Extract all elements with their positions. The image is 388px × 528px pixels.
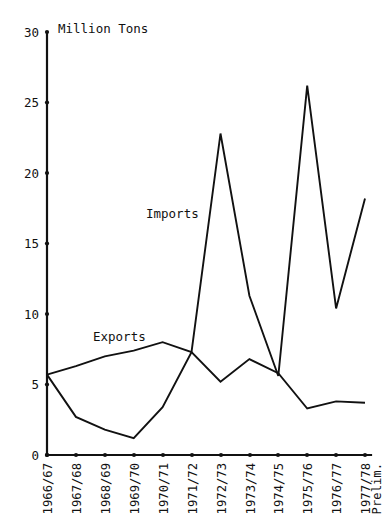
x-tick-label-2: 1968/69 (99, 463, 113, 514)
y-tick-25 (45, 100, 49, 104)
x-axis-tick-labels: 1966/67 1967/68 1968/69 1969/70 1970/71 … (41, 463, 384, 514)
y-tick-20 (45, 171, 49, 175)
x-tick-label-5: 1971/72 (186, 463, 200, 514)
y-tick-label-20: 20 (24, 166, 39, 181)
x-tick-3 (132, 453, 136, 457)
y-tick-15 (45, 241, 49, 245)
y-tick-label-5: 5 (31, 377, 39, 392)
line-chart: 30 25 20 15 10 5 0 Million Tons Im (0, 0, 388, 528)
x-tick-11 (363, 453, 367, 457)
x-tick-10 (334, 453, 338, 457)
x-tick-2 (103, 453, 107, 457)
x-tick-7 (248, 453, 252, 457)
x-tick-9 (305, 453, 309, 457)
y-tick-10 (45, 312, 49, 316)
x-tick-1 (74, 453, 78, 457)
x-tick-0 (45, 453, 49, 457)
x-tick-label-10: 1976/77 (330, 463, 344, 514)
x-tick-8 (276, 453, 280, 457)
y-tick-label-0: 0 (31, 448, 39, 463)
y-tick-label-10: 10 (24, 307, 39, 322)
series-line-exports (47, 342, 365, 408)
chart-canvas: 30 25 20 15 10 5 0 Million Tons Im (0, 0, 388, 528)
x-tick-label-6: 1972/73 (215, 463, 229, 514)
y-axis-unit-label: Million Tons (58, 21, 148, 36)
series-line-imports (47, 86, 365, 439)
x-tick-5 (190, 453, 194, 457)
y-tick-5 (45, 382, 49, 386)
y-tick-30 (45, 30, 49, 34)
x-tick-label-0: 1966/67 (41, 463, 55, 514)
x-tick-label-7: 1973/74 (244, 463, 258, 514)
x-tick-label-4: 1970/71 (157, 463, 171, 514)
x-tick-label-3: 1969/70 (128, 463, 142, 514)
series-label-exports: Exports (93, 329, 146, 344)
x-tick-label-9: 1975/76 (301, 463, 315, 514)
y-tick-label-30: 30 (24, 25, 39, 40)
x-tick-4 (161, 453, 165, 457)
x-tick-label-11-line2: Prelim. (370, 463, 384, 514)
y-tick-label-25: 25 (24, 95, 39, 110)
x-tick-6 (219, 453, 223, 457)
x-tick-label-8: 1974/75 (272, 463, 286, 514)
y-tick-label-15: 15 (24, 236, 39, 251)
series-label-imports: Imports (146, 206, 199, 221)
x-tick-label-1: 1967/68 (70, 463, 84, 514)
